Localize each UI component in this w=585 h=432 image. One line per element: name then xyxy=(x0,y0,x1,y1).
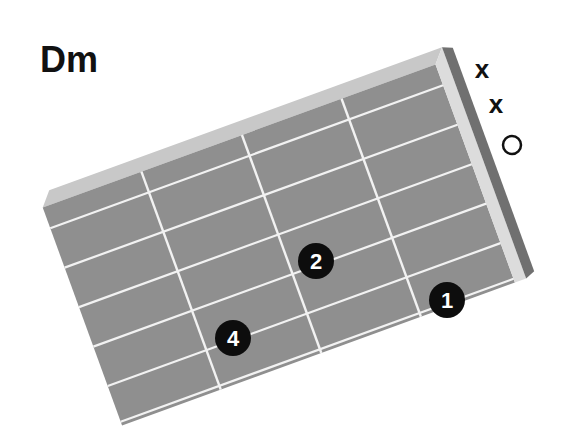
finger-label: 4 xyxy=(227,326,240,351)
finger-dot: 2 xyxy=(298,243,334,279)
finger-dot: 4 xyxy=(215,320,251,356)
fretboard xyxy=(38,44,536,426)
finger-label: 2 xyxy=(310,249,322,274)
muted-string-icon: x xyxy=(475,54,490,84)
finger-dot: 1 xyxy=(429,282,465,318)
chord-diagram: 2 4 1 x x xyxy=(0,0,585,432)
open-string-icon xyxy=(503,136,521,154)
finger-label: 1 xyxy=(441,288,453,313)
muted-string-icon: x xyxy=(489,89,504,119)
